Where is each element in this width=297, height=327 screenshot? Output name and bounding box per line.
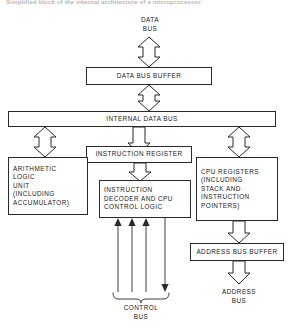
alu-block[interactable]: ARITHMETIC LOGIC UNIT (INCLUDING ACCUMUL… bbox=[8, 157, 88, 215]
arrow-internal-bus-to-alu bbox=[34, 127, 56, 157]
arrow-address-buffer-to-address-bus bbox=[228, 261, 250, 284]
cpu-registers-block[interactable]: CPU REGISTERS (INCLUDING STACK AND INSTR… bbox=[196, 157, 278, 221]
control-bus-label: CONTROL BUS bbox=[119, 304, 163, 321]
address-bus-buffer-block[interactable]: ADDRESS BUS BUFFER bbox=[190, 243, 284, 261]
figure-caption: Simplified block of the internal archite… bbox=[6, 0, 286, 7]
instruction-register-block[interactable]: INSTRUCTION REGISTER bbox=[86, 146, 192, 163]
arrow-cpu-registers-to-address-buffer bbox=[228, 221, 250, 243]
alu-label: ARITHMETIC LOGIC UNIT (INCLUDING ACCUMUL… bbox=[13, 165, 69, 208]
internal-data-bus-block[interactable]: INTERNAL DATA BUS bbox=[8, 111, 276, 127]
internal-data-bus-label: INTERNAL DATA BUS bbox=[106, 115, 177, 124]
control-bus-arrowhead-3 bbox=[142, 218, 149, 226]
data-bus-buffer-block[interactable]: DATA BUS BUFFER bbox=[86, 67, 212, 85]
instruction-register-label: INSTRUCTION REGISTER bbox=[95, 150, 182, 159]
control-bus-arrowhead-4 bbox=[161, 284, 168, 292]
address-bus-label: ADDRESS BUS bbox=[217, 288, 261, 305]
arrow-buffer-to-internal-bus bbox=[138, 85, 160, 111]
arrow-internal-bus-to-cpu-registers bbox=[228, 127, 250, 157]
instruction-decoder-label: INSTRUCTION DECODER AND CPU CONTROL LOGI… bbox=[104, 186, 173, 212]
arrow-instruction-register-to-decoder bbox=[129, 163, 151, 181]
data-bus-label: DATA BUS bbox=[128, 16, 172, 33]
cpu-registers-label: CPU REGISTERS (INCLUDING STACK AND INSTR… bbox=[201, 168, 259, 211]
address-bus-buffer-label: ADDRESS BUS BUFFER bbox=[196, 248, 277, 257]
control-bus-arrowhead-1 bbox=[114, 218, 121, 226]
instruction-decoder-block[interactable]: INSTRUCTION DECODER AND CPU CONTROL LOGI… bbox=[99, 180, 191, 218]
arrow-data-bus-to-buffer bbox=[138, 37, 160, 67]
data-bus-buffer-label: DATA BUS BUFFER bbox=[117, 72, 182, 81]
control-bus-arrowhead-2 bbox=[128, 218, 135, 226]
control-bus-brace bbox=[113, 293, 169, 303]
